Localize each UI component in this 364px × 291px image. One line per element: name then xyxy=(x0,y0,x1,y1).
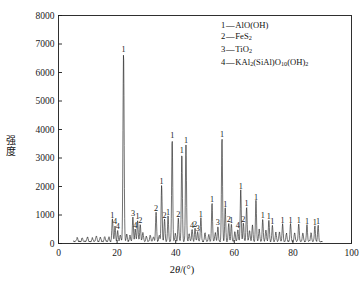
legend: 1 — AlO(OH) 2 — FeS2 3 — TiO2 4 — KAl2(S… xyxy=(221,20,308,70)
svg-text:1: 1 xyxy=(254,193,258,202)
svg-text:60: 60 xyxy=(230,248,240,258)
svg-text:4: 4 xyxy=(133,221,137,230)
svg-text:8000: 8000 xyxy=(36,11,55,21)
svg-text:1: 1 xyxy=(223,200,227,209)
legend-item-1: 1 — AlO(OH) xyxy=(221,20,308,31)
svg-text:3: 3 xyxy=(196,224,200,233)
svg-text:2000: 2000 xyxy=(36,182,55,192)
svg-text:4: 4 xyxy=(236,221,240,230)
y-axis-title: 强度 xyxy=(4,135,18,157)
svg-text:1: 1 xyxy=(239,182,243,191)
svg-text:2: 2 xyxy=(154,204,158,213)
svg-text:1: 1 xyxy=(184,136,188,145)
plot-area: 0204060801000100020003000400050006000700… xyxy=(0,0,364,291)
svg-text:20: 20 xyxy=(112,248,122,258)
svg-text:5000: 5000 xyxy=(36,96,55,106)
svg-text:1: 1 xyxy=(305,217,309,226)
svg-text:1: 1 xyxy=(297,216,301,225)
svg-text:1: 1 xyxy=(210,195,214,204)
legend-item-2: 2 — FeS2 xyxy=(221,31,308,44)
svg-text:1: 1 xyxy=(270,217,274,226)
svg-text:40: 40 xyxy=(171,248,181,258)
svg-text:6000: 6000 xyxy=(36,68,55,78)
svg-text:1: 1 xyxy=(220,130,224,139)
svg-text:1: 1 xyxy=(166,208,170,217)
svg-text:4000: 4000 xyxy=(36,125,55,135)
svg-text:4: 4 xyxy=(116,222,120,231)
svg-text:1: 1 xyxy=(289,216,293,225)
svg-text:1: 1 xyxy=(180,146,184,155)
x-axis-title: 2θ/(°) xyxy=(0,264,364,275)
svg-text:7000: 7000 xyxy=(36,39,55,49)
svg-text:3: 3 xyxy=(131,209,135,218)
svg-text:1: 1 xyxy=(245,199,249,208)
svg-text:1: 1 xyxy=(316,217,320,226)
svg-text:80: 80 xyxy=(288,248,298,258)
legend-item-4: 4 — KAl2(SiAl)O10(OH)2 xyxy=(221,57,308,70)
svg-text:1: 1 xyxy=(261,211,265,220)
svg-text:0: 0 xyxy=(56,248,61,258)
svg-text:1: 1 xyxy=(199,210,203,219)
xrd-chart-figure: 0204060801000100020003000400050006000700… xyxy=(0,0,364,291)
svg-text:3: 3 xyxy=(216,218,220,227)
svg-text:2: 2 xyxy=(176,210,180,219)
svg-text:1: 1 xyxy=(170,131,174,140)
legend-item-3: 3 — TiO2 xyxy=(221,44,308,57)
svg-text:2: 2 xyxy=(138,216,142,225)
svg-text:1000: 1000 xyxy=(36,210,55,220)
svg-text:0: 0 xyxy=(50,239,55,249)
svg-text:1: 1 xyxy=(281,216,285,225)
svg-text:1: 1 xyxy=(121,45,125,54)
svg-text:3000: 3000 xyxy=(36,153,55,163)
svg-text:2: 2 xyxy=(241,215,245,224)
svg-text:1: 1 xyxy=(160,177,164,186)
svg-text:1: 1 xyxy=(229,216,233,225)
svg-text:100: 100 xyxy=(344,248,359,258)
